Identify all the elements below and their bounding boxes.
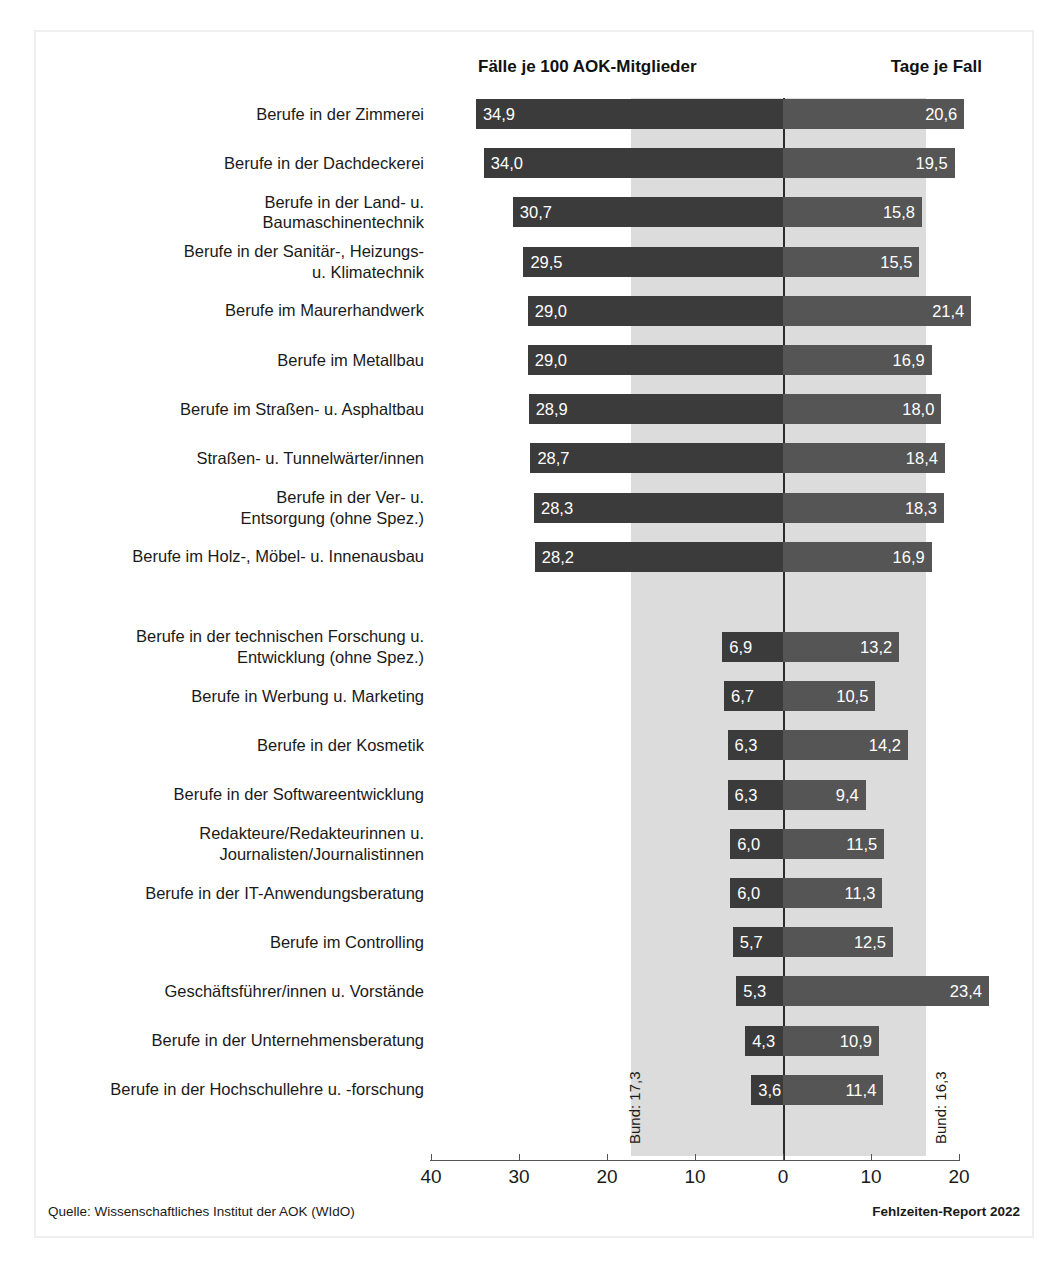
row-label: Berufe in der Hochschullehre u. -forschu… xyxy=(4,1079,424,1100)
bar-row: Berufe in der Sanitär-, Heizungs-u. Klim… xyxy=(36,247,1036,277)
bar-faelle: 6,9 xyxy=(722,632,783,662)
footer-source: Quelle: Wissenschaftliches Institut der … xyxy=(48,1204,355,1219)
bar-faelle: 28,3 xyxy=(534,493,783,523)
axis-tick-label: 20 xyxy=(948,1166,969,1188)
bar-tage: 15,5 xyxy=(783,247,919,277)
row-label: Berufe in der Unternehmensberatung xyxy=(4,1030,424,1051)
row-label: Berufe im Holz-, Möbel- u. Innenausbau xyxy=(4,546,424,567)
row-label-line: Berufe in der Sanitär-, Heizungs- xyxy=(4,241,424,262)
row-label-line: Berufe in der Hochschullehre u. -forschu… xyxy=(4,1079,424,1100)
row-label-line: Berufe in der technischen Forschung u. xyxy=(4,626,424,647)
row-label-line: Berufe im Maurerhandwerk xyxy=(4,300,424,321)
axis-tick xyxy=(519,1154,520,1161)
axis-tick-label: 20 xyxy=(596,1166,617,1188)
row-label-line: Entwicklung (ohne Spez.) xyxy=(4,647,424,668)
bar-faelle: 28,7 xyxy=(530,443,783,473)
bar-row: Berufe in der IT-Anwendungsberatung6,011… xyxy=(36,878,1036,908)
row-label-line: Berufe im Straßen- u. Asphaltbau xyxy=(4,399,424,420)
bar-row: Berufe im Controlling5,712,5 xyxy=(36,927,1036,957)
axis-tick xyxy=(607,1154,608,1161)
axis-tick-label: 10 xyxy=(860,1166,881,1188)
bar-row: Berufe in der technischen Forschung u.En… xyxy=(36,632,1036,662)
bar-tage: 13,2 xyxy=(783,632,899,662)
row-label: Berufe in der Zimmerei xyxy=(4,104,424,125)
row-label: Berufe in Werbung u. Marketing xyxy=(4,686,424,707)
row-label-line: Entsorgung (ohne Spez.) xyxy=(4,508,424,529)
row-label: Berufe in der Dachdeckerei xyxy=(4,153,424,174)
chart-frame: Fälle je 100 AOK-Mitglieder Tage je Fall… xyxy=(34,30,1034,1238)
bar-faelle: 6,0 xyxy=(730,878,783,908)
bar-tage: 18,4 xyxy=(783,443,945,473)
axis-tick-label: 30 xyxy=(508,1166,529,1188)
bar-faelle: 5,7 xyxy=(733,927,783,957)
bar-faelle: 29,5 xyxy=(523,247,783,277)
bar-faelle: 28,2 xyxy=(535,542,783,572)
plot-area: Bund: 17,3 Bund: 16,3 Berufe in der Zimm… xyxy=(36,32,1036,1240)
bar-row: Berufe in der Land- u.Baumaschinentechni… xyxy=(36,197,1036,227)
bar-faelle: 29,0 xyxy=(528,345,783,375)
row-label-line: Berufe in der Kosmetik xyxy=(4,735,424,756)
row-label-line: Baumaschinentechnik xyxy=(4,212,424,233)
bar-row: Straßen- u. Tunnelwärter/innen28,718,4 xyxy=(36,443,1036,473)
bar-faelle: 6,3 xyxy=(728,730,783,760)
bar-row: Redakteure/Redakteurinnen u.Journalisten… xyxy=(36,829,1036,859)
row-label-line: Berufe in der Ver- u. xyxy=(4,487,424,508)
bar-row: Berufe in der Softwareentwicklung6,39,4 xyxy=(36,780,1036,810)
bar-faelle: 34,0 xyxy=(484,148,783,178)
row-label: Berufe in der IT-Anwendungsberatung xyxy=(4,883,424,904)
axis-tick xyxy=(783,1154,784,1161)
bar-tage: 10,9 xyxy=(783,1026,879,1056)
bar-tage: 23,4 xyxy=(783,976,989,1006)
row-label: Berufe im Metallbau xyxy=(4,350,424,371)
axis-tick xyxy=(959,1154,960,1161)
bar-tage: 21,4 xyxy=(783,296,971,326)
axis-tick xyxy=(871,1154,872,1161)
row-label-line: Geschäftsführer/innen u. Vorstände xyxy=(4,981,424,1002)
bar-row: Berufe in der Zimmerei34,920,6 xyxy=(36,99,1036,129)
bar-row: Berufe in der Dachdeckerei34,019,5 xyxy=(36,148,1036,178)
bar-faelle: 28,9 xyxy=(529,394,783,424)
row-label-line: Berufe in Werbung u. Marketing xyxy=(4,686,424,707)
bar-tage: 9,4 xyxy=(783,780,866,810)
row-label-line: Berufe im Holz-, Möbel- u. Innenausbau xyxy=(4,546,424,567)
bar-tage: 16,9 xyxy=(783,542,932,572)
bar-faelle: 30,7 xyxy=(513,197,783,227)
bar-faelle: 6,3 xyxy=(728,780,783,810)
bar-tage: 20,6 xyxy=(783,99,964,129)
row-label: Berufe im Controlling xyxy=(4,932,424,953)
row-label-line: Berufe in der Dachdeckerei xyxy=(4,153,424,174)
row-label: Straßen- u. Tunnelwärter/innen xyxy=(4,448,424,469)
axis-tick-label: 10 xyxy=(684,1166,705,1188)
bar-tage: 15,8 xyxy=(783,197,922,227)
bar-faelle: 4,3 xyxy=(745,1026,783,1056)
bar-row: Berufe in Werbung u. Marketing6,710,5 xyxy=(36,681,1036,711)
row-label-line: Berufe in der Land- u. xyxy=(4,192,424,213)
bar-row: Berufe im Maurerhandwerk29,021,4 xyxy=(36,296,1036,326)
row-label-line: Journalisten/Journalistinnen xyxy=(4,844,424,865)
bar-faelle: 6,7 xyxy=(724,681,783,711)
row-label-line: Straßen- u. Tunnelwärter/innen xyxy=(4,448,424,469)
axis-tick xyxy=(695,1154,696,1161)
row-label-line: Berufe in der Zimmerei xyxy=(4,104,424,125)
row-label: Geschäftsführer/innen u. Vorstände xyxy=(4,981,424,1002)
bar-row: Berufe im Holz-, Möbel- u. Innenausbau28… xyxy=(36,542,1036,572)
bar-tage: 18,0 xyxy=(783,394,941,424)
axis-tick-label: 40 xyxy=(420,1166,441,1188)
row-label: Berufe in der Ver- u.Entsorgung (ohne Sp… xyxy=(4,487,424,529)
bar-row: Berufe im Straßen- u. Asphaltbau28,918,0 xyxy=(36,394,1036,424)
bar-row: Geschäftsführer/innen u. Vorstände5,323,… xyxy=(36,976,1036,1006)
row-label: Berufe im Maurerhandwerk xyxy=(4,300,424,321)
bar-faelle: 34,9 xyxy=(476,99,783,129)
bar-row: Berufe in der Kosmetik6,314,2 xyxy=(36,730,1036,760)
bar-tage: 14,2 xyxy=(783,730,908,760)
row-label-line: Berufe in der IT-Anwendungsberatung xyxy=(4,883,424,904)
bar-row: Berufe in der Ver- u.Entsorgung (ohne Sp… xyxy=(36,493,1036,523)
row-label-line: Berufe in der Softwareentwicklung xyxy=(4,784,424,805)
bar-faelle: 6,0 xyxy=(730,829,783,859)
row-label: Berufe in der Sanitär-, Heizungs-u. Klim… xyxy=(4,241,424,283)
row-label: Berufe in der Softwareentwicklung xyxy=(4,784,424,805)
bar-tage: 18,3 xyxy=(783,493,944,523)
bar-tage: 11,3 xyxy=(783,878,882,908)
row-label-line: Redakteure/Redakteurinnen u. xyxy=(4,823,424,844)
bar-faelle: 5,3 xyxy=(736,976,783,1006)
